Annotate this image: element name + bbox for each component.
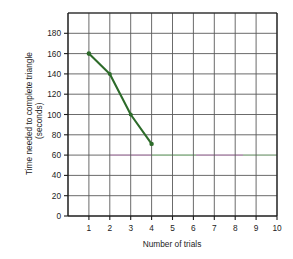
data-point-trial-1 xyxy=(87,51,92,56)
x-tick-label-7: 8 xyxy=(233,223,238,233)
x-axis-title: Number of trials xyxy=(143,239,202,249)
y-tick-label-7: 140 xyxy=(47,69,61,79)
x-tick-label-5: 6 xyxy=(191,223,196,233)
y-tick-label-9: 180 xyxy=(47,28,61,38)
data-point-trial-4 xyxy=(149,142,153,146)
y-tick-label-0: 0 xyxy=(56,211,61,221)
y-tick-label-4: 80 xyxy=(52,130,62,140)
x-tick-label-6: 7 xyxy=(212,223,217,233)
y-axis-title-line-2: (seconds) xyxy=(34,102,44,139)
x-tick-label-8: 9 xyxy=(254,223,259,233)
x-tick-label-4: 5 xyxy=(170,223,175,233)
data-point-trial-3 xyxy=(129,113,133,117)
x-tick-label-1: 2 xyxy=(107,223,112,233)
y-tick-label-3: 60 xyxy=(52,150,62,160)
data-point-trial-2 xyxy=(108,72,112,76)
chart-figure: 0 20 40 60 80 100 120 140 160 180 1 2 3 … xyxy=(0,0,293,259)
x-tick-label-0: 1 xyxy=(87,223,92,233)
chart-svg: 0 20 40 60 80 100 120 140 160 180 1 2 3 … xyxy=(0,0,293,259)
x-tick-label-3: 4 xyxy=(149,223,154,233)
x-tick-label-9: 10 xyxy=(272,223,282,233)
y-axis-title-line-1: Time needed to complete triangle xyxy=(24,52,34,175)
x-tick-label-2: 3 xyxy=(128,223,133,233)
y-tick-label-8: 160 xyxy=(47,49,61,59)
y-tick-label-5: 100 xyxy=(47,110,61,120)
y-tick-label-1: 20 xyxy=(52,191,62,201)
y-tick-label-6: 120 xyxy=(47,89,61,99)
y-tick-label-2: 40 xyxy=(52,170,62,180)
